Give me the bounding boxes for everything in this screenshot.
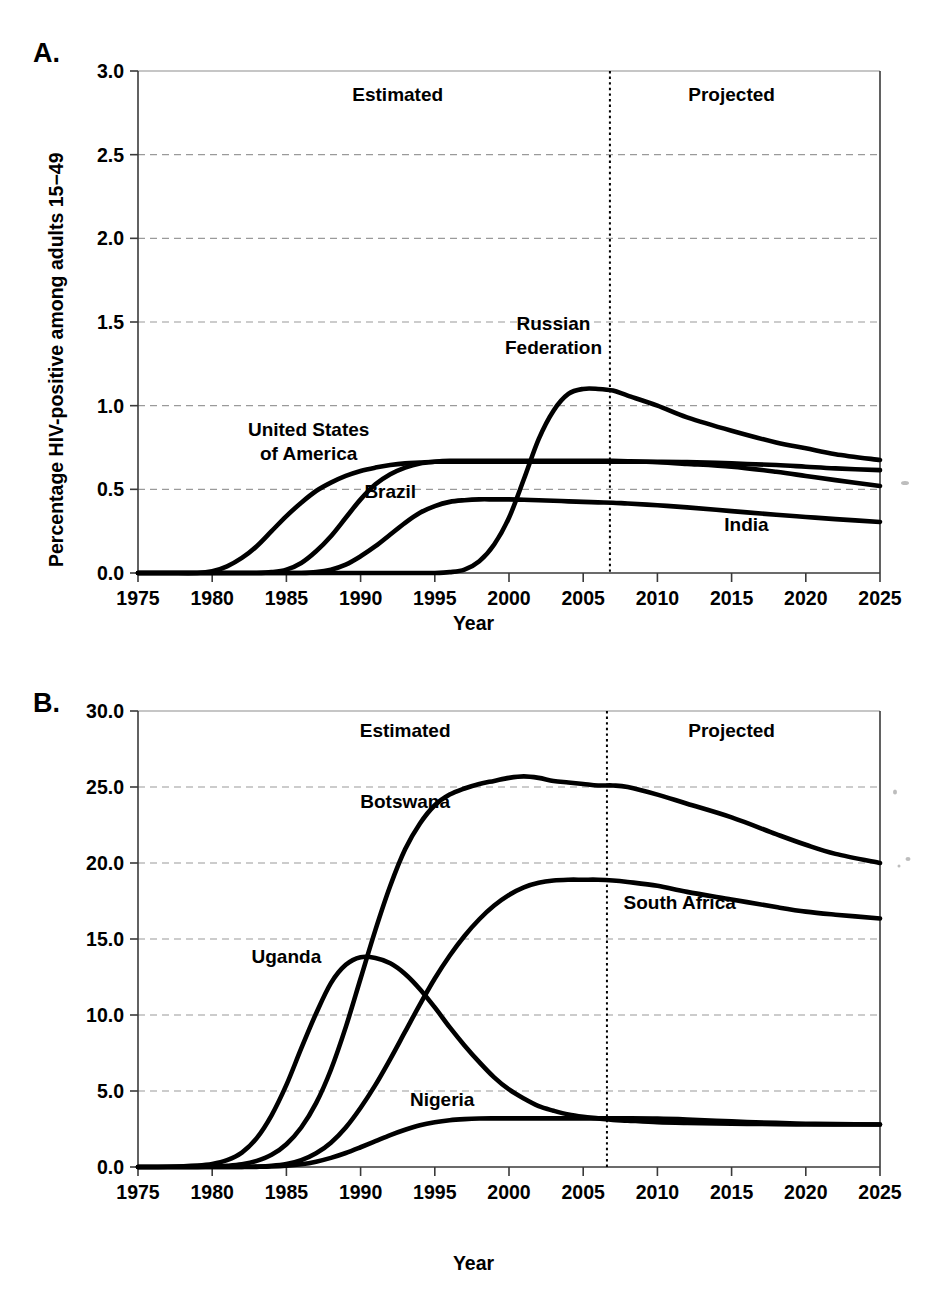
x-tick-label: 2020 [784, 587, 828, 609]
x-tick-label: 1980 [191, 1181, 235, 1203]
scan-artifact [893, 790, 897, 795]
x-tick-label: 1975 [116, 1181, 160, 1203]
scan-artifact [906, 857, 911, 861]
series-line-botswana [138, 776, 880, 1167]
series-label-south-africa: South Africa [624, 892, 737, 913]
period-label-projected: Projected [688, 720, 775, 741]
x-tick-label: 2005 [562, 587, 606, 609]
series-label-brazil: Brazil [364, 481, 416, 502]
x-tick-label: 2025 [858, 587, 902, 609]
x-tick-label: 1990 [339, 1181, 383, 1203]
series-label-botswana: Botswana [360, 791, 450, 812]
x-tick-label: 2010 [636, 1181, 680, 1203]
y-tick-label: 2.5 [97, 144, 124, 166]
series-label-uganda: Uganda [252, 946, 322, 967]
series-label-united-states-of-america: of America [260, 443, 358, 464]
y-tick-label: 25.0 [86, 776, 124, 798]
y-tick-label: 5.0 [97, 1080, 124, 1102]
y-tick-label: 20.0 [86, 852, 124, 874]
y-tick-label: 3.0 [97, 60, 124, 82]
x-tick-label: 2025 [858, 1181, 902, 1203]
x-tick-label: 1980 [191, 587, 235, 609]
x-tick-label: 1995 [413, 1181, 457, 1203]
y-tick-label: 0.0 [97, 562, 124, 584]
x-tick-label: 2015 [710, 587, 754, 609]
series-label-russian-federation: Russian [517, 313, 591, 334]
x-tick-label: 2015 [710, 1181, 754, 1203]
y-tick-label: 2.0 [97, 227, 124, 249]
x-tick-label: 1995 [413, 587, 457, 609]
panel-b: B. Percentage HIV-positive among adults … [0, 640, 947, 1301]
x-tick-label: 1985 [265, 587, 309, 609]
y-tick-label: 0.0 [97, 1156, 124, 1178]
panel-b-plot: 0.05.010.015.020.025.030.019751980198519… [0, 640, 947, 1301]
figure-container: A. Percentage HIV-positive among adults … [0, 0, 947, 1301]
y-tick-label: 10.0 [86, 1004, 124, 1026]
series-label-united-states-of-america: United States [248, 419, 369, 440]
period-label-estimated: Estimated [352, 84, 443, 105]
x-tick-label: 2000 [487, 587, 531, 609]
scan-artifact [901, 481, 909, 485]
y-tick-label: 0.5 [97, 478, 124, 500]
x-tick-label: 2020 [784, 1181, 828, 1203]
x-tick-label: 2000 [487, 1181, 531, 1203]
scan-artifact [898, 865, 901, 868]
x-tick-label: 2005 [562, 1181, 606, 1203]
series-label-russian-federation: Federation [505, 337, 602, 358]
series-label-india: India [724, 514, 769, 535]
x-tick-label: 1985 [265, 1181, 309, 1203]
x-tick-label: 2010 [636, 587, 680, 609]
x-tick-label: 1990 [339, 587, 383, 609]
y-tick-label: 1.5 [97, 311, 124, 333]
x-tick-label: 1975 [116, 587, 160, 609]
series-label-nigeria: Nigeria [410, 1089, 475, 1110]
panel-a-plot: 0.00.51.01.52.02.53.01975198019851990199… [0, 0, 947, 650]
period-label-projected: Projected [688, 84, 775, 105]
y-tick-label: 15.0 [86, 928, 124, 950]
series-line-russian-federation [138, 388, 880, 573]
series-line-india [138, 499, 880, 573]
panel-a: A. Percentage HIV-positive among adults … [0, 0, 947, 650]
y-tick-label: 1.0 [97, 395, 124, 417]
series-line-uganda [138, 957, 880, 1167]
y-tick-label: 30.0 [86, 700, 124, 722]
period-label-estimated: Estimated [360, 720, 451, 741]
